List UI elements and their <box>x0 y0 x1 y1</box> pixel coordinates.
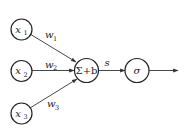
sum-node: Σ+b <box>75 59 99 83</box>
weight-label-w3: w 3 <box>47 98 59 112</box>
input-node-x2: x 2 <box>11 61 32 82</box>
svg-text:x: x <box>15 65 21 76</box>
input-node-x1: x 1 <box>11 19 32 40</box>
input-node-x3: x 3 <box>11 103 32 124</box>
svg-text:1: 1 <box>24 29 28 37</box>
activation-node: σ <box>125 59 149 83</box>
svg-text:2: 2 <box>24 71 28 79</box>
svg-text:x: x <box>15 108 21 119</box>
sum-label: Σ+b <box>76 65 98 76</box>
svg-text:3: 3 <box>24 113 28 121</box>
svg-text:1: 1 <box>53 35 57 43</box>
intermediate-label-s: s <box>104 57 109 68</box>
weight-label-w2: w 2 <box>45 59 57 73</box>
activation-label: σ <box>134 65 142 76</box>
svg-text:3: 3 <box>55 104 59 112</box>
neuron-diagram: x 1 x 2 x 3 w 1 w 2 w 3 Σ+b s σ <box>0 0 188 130</box>
svg-text:2: 2 <box>53 64 57 72</box>
svg-text:x: x <box>15 24 21 35</box>
weight-label-w1: w 1 <box>45 29 57 43</box>
